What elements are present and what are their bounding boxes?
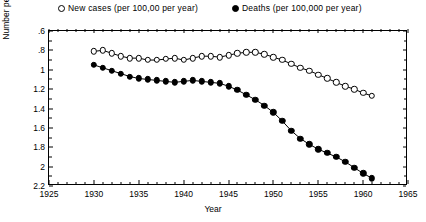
x-axis-label: Year	[0, 204, 426, 214]
data-point-new-cases	[279, 57, 285, 63]
data-point-deaths	[189, 77, 195, 83]
y-tick-label: 2	[40, 162, 45, 172]
y-axis-label-wrap: Number per year (log scale)	[3, 30, 15, 185]
data-point-new-cases	[333, 79, 339, 85]
data-point-deaths	[162, 78, 168, 84]
data-point-new-cases	[109, 50, 115, 56]
data-point-deaths	[297, 135, 303, 141]
data-point-new-cases	[171, 55, 177, 61]
data-point-new-cases	[145, 57, 151, 63]
data-point-new-cases	[198, 53, 204, 59]
x-tick-label: 1960	[354, 189, 373, 199]
data-point-new-cases	[207, 53, 213, 59]
data-point-new-cases	[162, 56, 168, 62]
x-tick-label: 1935	[129, 189, 148, 199]
y-tick-mark	[49, 186, 53, 187]
legend-label-deaths: Deaths (per 100,000 per year)	[242, 3, 362, 13]
data-point-deaths	[171, 79, 177, 85]
data-point-deaths	[243, 92, 249, 98]
y-axis-label: Number per year (log scale)	[1, 0, 11, 62]
data-point-deaths	[252, 97, 258, 103]
data-point-deaths	[351, 164, 357, 170]
x-tick-label: 1955	[309, 189, 328, 199]
data-point-deaths	[118, 70, 124, 76]
data-point-deaths	[333, 154, 339, 160]
data-point-deaths	[153, 77, 159, 83]
y-tick-label: 1.2	[33, 84, 45, 94]
data-point-deaths	[288, 128, 294, 134]
chart-legend: New cases (per 100,00 per year) Deaths (…	[0, 0, 426, 18]
data-point-deaths	[198, 78, 204, 84]
data-point-deaths	[261, 102, 267, 108]
data-point-new-cases	[351, 86, 357, 92]
data-point-deaths	[180, 78, 186, 84]
data-point-new-cases	[243, 49, 249, 55]
data-point-new-cases	[234, 50, 240, 56]
data-point-new-cases	[216, 54, 222, 60]
x-tick-label: 1945	[219, 189, 238, 199]
x-tick-label: 1950	[264, 189, 283, 199]
filled-circle-marker-icon	[232, 5, 239, 12]
data-point-new-cases	[306, 68, 312, 74]
open-circle-marker-icon	[58, 5, 65, 12]
data-point-new-cases	[315, 71, 321, 77]
data-point-deaths	[109, 68, 115, 74]
legend-label-new-cases: New cases (per 100,00 per year)	[68, 3, 198, 13]
data-point-new-cases	[127, 55, 133, 61]
data-point-new-cases	[270, 54, 276, 60]
data-point-new-cases	[225, 52, 231, 58]
y-tick-mark-right	[403, 186, 406, 187]
data-point-new-cases	[324, 75, 330, 81]
y-tick-label: 1	[40, 65, 45, 75]
x-tick-label: 1930	[84, 189, 103, 199]
data-point-deaths	[315, 146, 321, 152]
legend-entry-new-cases: New cases (per 100,00 per year)	[58, 3, 198, 13]
data-point-new-cases	[180, 57, 186, 63]
y-tick-label: .6	[38, 26, 45, 36]
data-point-deaths	[225, 83, 231, 89]
data-point-new-cases	[136, 55, 142, 61]
x-tick-label: 1940	[174, 189, 193, 199]
data-point-deaths	[234, 87, 240, 93]
x-tick-label: 1925	[40, 189, 59, 199]
data-point-new-cases	[288, 61, 294, 67]
x-tick-mark	[408, 180, 409, 184]
data-point-new-cases	[360, 90, 366, 96]
y-tick-label: .8	[38, 45, 45, 55]
data-point-deaths	[216, 80, 222, 86]
data-point-deaths	[360, 170, 366, 176]
data-point-deaths	[369, 175, 375, 181]
data-point-new-cases	[261, 51, 267, 57]
legend-entry-deaths: Deaths (per 100,000 per year)	[232, 3, 362, 13]
data-point-new-cases	[153, 57, 159, 63]
data-point-layer	[49, 31, 406, 184]
y-tick-label: 1.6	[33, 123, 45, 133]
data-point-deaths	[342, 159, 348, 165]
data-point-new-cases	[118, 53, 124, 59]
data-point-deaths	[306, 141, 312, 147]
x-tick-label: 1965	[399, 189, 418, 199]
data-point-new-cases	[100, 47, 106, 53]
data-point-new-cases	[342, 83, 348, 89]
data-point-deaths	[279, 118, 285, 124]
data-point-new-cases	[297, 65, 303, 71]
data-point-deaths	[270, 109, 276, 115]
data-point-deaths	[324, 150, 330, 156]
data-point-deaths	[91, 62, 97, 68]
y-tick-label: 1.8	[33, 142, 45, 152]
data-point-new-cases	[252, 49, 258, 55]
data-point-new-cases	[369, 93, 375, 99]
data-point-new-cases	[91, 48, 97, 54]
data-point-deaths	[207, 79, 213, 85]
data-point-deaths	[136, 75, 142, 81]
y-tick-label: 1.4	[33, 104, 45, 114]
chart-figure: New cases (per 100,00 per year) Deaths (…	[0, 0, 426, 222]
data-point-deaths	[100, 65, 106, 71]
data-point-deaths	[127, 73, 133, 79]
plot-area: 2.221.81.61.41.21.8.61925193019351940194…	[48, 30, 407, 185]
data-point-new-cases	[189, 55, 195, 61]
data-point-deaths	[145, 76, 151, 82]
x-tick-mark-top	[408, 29, 409, 33]
